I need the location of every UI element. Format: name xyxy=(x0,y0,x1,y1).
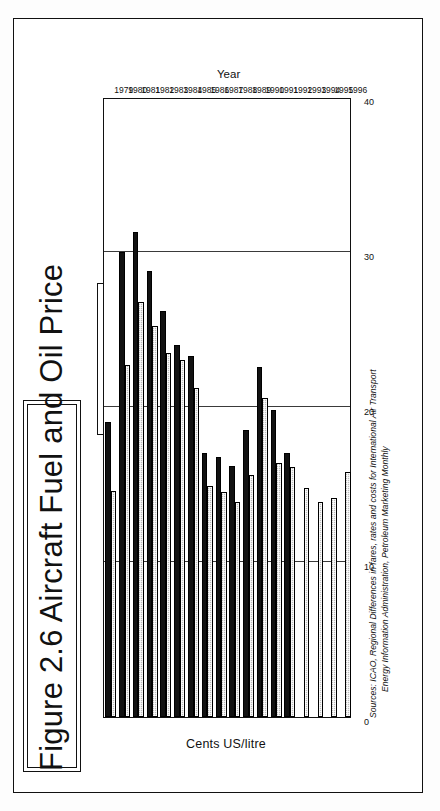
bar-usjet-1982 xyxy=(152,326,158,717)
bar-group-1981 xyxy=(132,99,146,717)
bar-usjet-1984 xyxy=(180,361,186,718)
sources-text-1: ICAO, Regional Differences in fares, rat… xyxy=(368,369,378,681)
bar-usjet-1991 xyxy=(276,463,282,717)
bar-group-1991 xyxy=(269,99,283,717)
sources-line-2: Energy Information Administration, Petro… xyxy=(379,369,391,718)
bar-group-1990 xyxy=(256,99,270,717)
bar-group-1982 xyxy=(145,99,159,717)
title-box: Figure 2.6 Aircraft Fuel and Oil Price xyxy=(23,400,81,772)
bar-group-1983 xyxy=(159,99,173,717)
bar-series-container xyxy=(104,99,350,717)
bar-group-1984 xyxy=(173,99,187,717)
category-axis-title: Year xyxy=(217,68,240,80)
bar-group-1979 xyxy=(104,99,118,717)
bar-group-1986 xyxy=(200,99,214,717)
bar-group-1993 xyxy=(297,99,311,717)
bar-usjet-1994 xyxy=(318,502,324,717)
bar-group-1996 xyxy=(338,99,352,717)
bar-usjet-1988 xyxy=(235,502,241,717)
figure-page: Figure 2.6 Aircraft Fuel and Oil Price I… xyxy=(0,0,440,811)
rotated-figure-canvas: Figure 2.6 Aircraft Fuel and Oil Price I… xyxy=(15,20,415,790)
bar-usjet-1996 xyxy=(345,472,351,717)
sources-text-2: Energy Information Administration, Petro… xyxy=(380,446,390,692)
bar-usjet-1985 xyxy=(194,388,200,717)
page-title: Figure 2.6 Aircraft Fuel and Oil Price xyxy=(34,401,70,771)
plot-area xyxy=(103,98,351,718)
sources-prefix: Sources: xyxy=(368,684,378,718)
bar-usjet-1992 xyxy=(290,467,296,717)
bar-group-1980 xyxy=(118,99,132,717)
bar-usjet-1980 xyxy=(125,365,131,717)
bar-usjet-1986 xyxy=(207,486,213,717)
bar-group-1988 xyxy=(228,99,242,717)
bar-usjet-1989 xyxy=(249,475,255,717)
bar-group-1992 xyxy=(283,99,297,717)
bar-usjet-1981 xyxy=(138,302,144,717)
bar-usjet-1979 xyxy=(111,491,117,717)
bar-group-1989 xyxy=(242,99,256,717)
value-tick-label-30: 30 xyxy=(364,252,374,262)
bar-group-1985 xyxy=(187,99,201,717)
value-tick-label-40: 40 xyxy=(364,97,374,107)
category-label-1996: 1996 xyxy=(348,86,367,95)
sources-line-1: Sources: ICAO, Regional Differences in f… xyxy=(367,369,379,718)
bar-usjet-1990 xyxy=(262,398,268,717)
bar-usjet-1983 xyxy=(166,353,172,717)
bar-group-1994 xyxy=(311,99,325,717)
sources-note: Sources: ICAO, Regional Differences in f… xyxy=(367,369,392,718)
bar-usjet-1995 xyxy=(331,498,337,717)
value-axis-title: Cents US/litre xyxy=(186,737,266,751)
bar-group-1987 xyxy=(214,99,228,717)
bar-usjet-1987 xyxy=(221,492,227,717)
bar-usjet-1993 xyxy=(304,488,310,717)
value-tick-label-0: 0 xyxy=(364,717,369,727)
bar-group-1995 xyxy=(324,99,338,717)
